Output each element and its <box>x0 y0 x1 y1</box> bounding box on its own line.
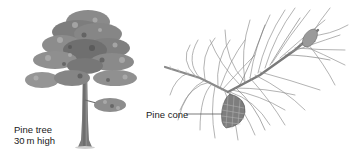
pine-branch-illustration <box>165 8 348 140</box>
tree-canopy <box>25 10 137 112</box>
cone-label: Pine cone <box>146 109 188 120</box>
pine-diagram: Pine tree 30 m high Pine cone <box>0 0 360 161</box>
pine-needles <box>170 8 348 140</box>
pine-cone <box>222 94 246 128</box>
tree-label-name: Pine tree <box>14 124 55 135</box>
tree-label: Pine tree 30 m high <box>14 124 55 146</box>
tree-label-height: 30 m high <box>14 135 55 146</box>
